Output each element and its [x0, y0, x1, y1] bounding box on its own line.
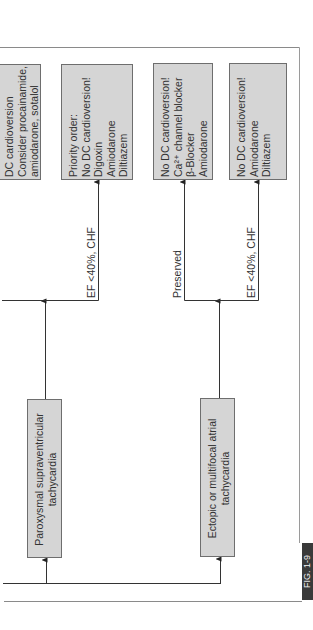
- source-text: Ectopic or multifocal atrial tachycardia: [206, 401, 231, 556]
- outcome-box-dc-cardioversion: DC cardioversion Consider procainamide, …: [0, 64, 41, 180]
- text-line: Consider procainamide,: [16, 66, 29, 177]
- figure-label-tab: FIG. 1-9: [302, 543, 313, 600]
- edge-label-ectopic-preserved: Preserved: [171, 250, 183, 298]
- text-line: amiodarone, sotalol: [28, 66, 41, 177]
- text-line: No DC cardioversion!: [80, 77, 93, 177]
- edge-label-ectopic-ef: EF <40%, CHF: [245, 227, 257, 298]
- source-box-psvt: Paroxysmal supraventricular tachycardia: [27, 399, 62, 558]
- text-line: Priority order:: [67, 77, 80, 177]
- text-line: Digoxin: [92, 77, 105, 177]
- text-line: tachycardia: [219, 401, 232, 556]
- text-line: DC cardioversion: [3, 66, 16, 177]
- text-line: No DC cardioversion!: [159, 77, 172, 177]
- figure-label: FIG. 1-9: [302, 543, 313, 600]
- text-line: Diltiazem: [117, 77, 130, 177]
- text-line: Amiodarone: [248, 77, 261, 177]
- outcome-text: Priority order: No DC cardioversion! Dig…: [67, 77, 130, 177]
- outcome-text: DC cardioversion Consider procainamide, …: [3, 66, 41, 177]
- text-line: Paroxysmal supraventricular: [33, 402, 46, 557]
- text-line: Amiodarone: [197, 77, 210, 177]
- outcome-text: No DC cardioversion! Amiodarone Diltiaze…: [235, 77, 273, 177]
- outcome-box-psvt-low-ef: Priority order: No DC cardioversion! Dig…: [61, 64, 133, 180]
- text-line: Ca²⁺ channel blocker: [172, 77, 185, 177]
- text-line: Ectopic or multifocal atrial: [206, 401, 219, 556]
- outcome-text: No DC cardioversion! Ca²⁺ channel blocke…: [159, 77, 209, 177]
- outcome-box-ectopic-low-ef: No DC cardioversion! Amiodarone Diltiaze…: [229, 63, 287, 180]
- text-line: Diltiazem: [260, 77, 273, 177]
- text-line: No DC cardioversion!: [235, 77, 248, 177]
- edge-label-psvt-ef: EF <40%, CHF: [85, 227, 97, 298]
- source-text: Paroxysmal supraventricular tachycardia: [33, 402, 58, 557]
- source-box-ectopic: Ectopic or multifocal atrial tachycardia: [200, 398, 235, 557]
- outcome-box-ectopic-preserved: No DC cardioversion! Ca²⁺ channel blocke…: [153, 63, 213, 180]
- text-line: tachycardia: [46, 402, 59, 557]
- text-line: Amiodarone: [105, 77, 118, 177]
- text-line: β-Blocker: [184, 77, 197, 177]
